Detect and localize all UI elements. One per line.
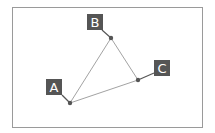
label-a: A	[46, 79, 62, 95]
diagram-frame	[13, 8, 203, 128]
label-b: B	[87, 14, 103, 30]
label-b-text: B	[91, 15, 100, 30]
label-c: C	[154, 60, 170, 76]
point-a	[68, 101, 72, 105]
triangle-diagram: A B C	[0, 0, 215, 133]
point-c	[136, 78, 140, 82]
label-a-text: A	[50, 80, 59, 95]
point-b	[109, 36, 113, 40]
label-c-text: C	[157, 61, 166, 76]
